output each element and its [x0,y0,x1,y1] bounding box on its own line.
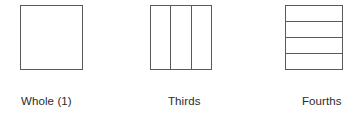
whole-square [20,5,83,70]
shape-group-fourths: Fourths [285,0,360,123]
fourths-cell-3 [286,37,342,53]
shape-group-thirds: Thirds [150,0,260,123]
thirds-cell-3 [191,6,211,69]
shape-label-thirds: Thirds [168,94,201,109]
fourths-square [285,5,343,70]
shape-group-whole: Whole (1) [20,0,130,123]
fraction-diagram: Whole (1) Thirds Fourths [0,0,364,123]
fourths-cell-4 [286,53,342,69]
thirds-cell-1 [151,6,170,69]
shape-label-fourths: Fourths [302,94,342,109]
thirds-square [150,5,212,70]
fourths-cell-1 [286,6,342,21]
shape-label-whole: Whole (1) [21,94,72,109]
fourths-cell-2 [286,21,342,37]
thirds-cell-2 [170,6,190,69]
whole-cell-1 [21,6,82,69]
